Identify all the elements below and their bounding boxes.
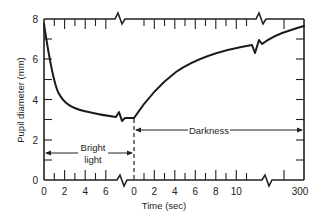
x-tick-a6: 6 (103, 186, 109, 197)
bright-light-curve (44, 24, 134, 121)
bright-label: Bright (81, 142, 106, 153)
y-tick-2: 2 (32, 135, 38, 146)
x-tick-a4: 4 (82, 186, 88, 197)
y-ticks-left (44, 39, 52, 160)
x-tick-b0: 0 (131, 186, 137, 197)
x-tick-b4: 4 (172, 186, 178, 197)
y-tick-6: 6 (32, 54, 38, 65)
x-tick-b8: 8 (213, 186, 219, 197)
darkness-curve (134, 26, 304, 118)
x-tick-300: 300 (292, 186, 309, 197)
x-tick-a0: 0 (41, 186, 47, 197)
x-axis-title: Time (sec) (142, 200, 187, 211)
y-tick-4: 4 (32, 95, 38, 106)
light-label: light (84, 154, 102, 165)
x-tick-b2: 2 (152, 186, 158, 197)
y-axis-title: Pupil diameter (mm) (15, 57, 26, 143)
x-axis-top (44, 13, 304, 24)
y-ticks-right (296, 39, 304, 160)
pupil-diameter-chart: Bright light Darkness 8 6 4 2 0 0 2 4 6 … (0, 0, 310, 219)
x-ticks-bottom-a (54, 170, 106, 180)
x-tick-a2: 2 (62, 186, 68, 197)
x-axis-bottom (44, 175, 304, 186)
x-ticks-top-a (54, 19, 106, 29)
x-tick-b10: 10 (231, 186, 243, 197)
y-tick-8: 8 (32, 14, 38, 25)
y-tick-0: 0 (32, 175, 38, 186)
darkness-label: Darkness (189, 125, 229, 136)
x-tick-b6: 6 (193, 186, 199, 197)
